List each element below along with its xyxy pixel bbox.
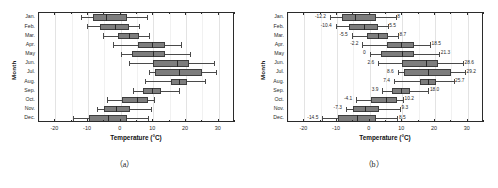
panel-caption-a: （a）	[0, 158, 249, 169]
plot-area-b: Month Jan.Feb.Mar.Apr.MayJun.Jul.Aug.Sep…	[249, 0, 498, 150]
max-value-label: 18.5	[432, 41, 462, 46]
value-annotations	[0, 0, 249, 150]
plot-area-a: Month Jan.Feb.Mar.Apr.MayJun.Jul.Aug.Sep…	[0, 0, 249, 150]
min-value-label: -12.2	[297, 14, 326, 19]
min-value-label: 2.6	[345, 60, 374, 65]
min-value-label: -2.2	[329, 41, 358, 46]
max-value-label: 5.5	[389, 23, 419, 28]
min-value-label: 8.6	[365, 69, 394, 74]
panel-b: Month Jan.Feb.Mar.Apr.MayJun.Jul.Aug.Sep…	[249, 0, 498, 188]
min-value-label: -5.5	[319, 32, 348, 37]
min-value-label: -7.3	[313, 105, 342, 110]
max-value-label: 8	[397, 14, 427, 19]
max-value-label: 8.5	[399, 115, 429, 120]
min-value-label: 7.4	[361, 78, 390, 83]
max-value-label: 9.3	[402, 105, 432, 110]
min-value-label: 3.9	[349, 87, 378, 92]
value-annotations: -12.28-10.45.5-5.58.7-2.218.5021.32.628.…	[249, 0, 498, 150]
max-value-label: 25.7	[455, 78, 485, 83]
min-value-label: 0	[337, 50, 366, 55]
max-value-label: 21.3	[441, 50, 471, 55]
min-value-label: -4.1	[323, 96, 352, 101]
min-value-label: -10.4	[303, 23, 332, 28]
max-value-label: 28.6	[465, 60, 495, 65]
max-value-label: 10.2	[404, 96, 434, 101]
max-value-label: 8.7	[400, 32, 430, 37]
min-value-label: -14.5	[289, 115, 318, 120]
figure-sheet: Month Jan.Feb.Mar.Apr.MayJun.Jul.Aug.Sep…	[0, 0, 498, 188]
panel-a: Month Jan.Feb.Mar.Apr.MayJun.Jul.Aug.Sep…	[0, 0, 249, 188]
max-value-label: 29.2	[467, 69, 497, 74]
panel-caption-b: （b）	[249, 158, 498, 169]
max-value-label: 18.0	[430, 87, 460, 92]
